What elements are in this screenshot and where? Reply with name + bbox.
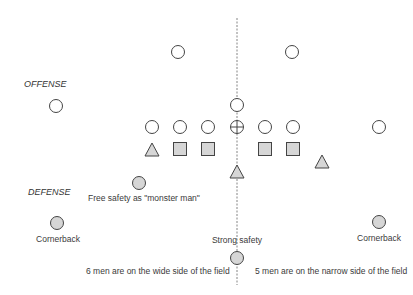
defense-player-square-icon <box>174 143 187 156</box>
defense-label: DEFENSE <box>28 187 71 197</box>
defense-player-triangle-icon <box>230 165 244 178</box>
defense-player-circle-icon <box>231 252 244 265</box>
defense-player-triangle-icon <box>315 155 329 168</box>
offense-player-circle-icon <box>287 121 300 134</box>
wide-side-note: 6 men are on the wide side of the field <box>86 266 230 276</box>
defense-player-circle-icon <box>51 217 64 230</box>
formation-diagram <box>0 0 413 295</box>
offense-player-circle-icon <box>172 46 185 59</box>
offense-player-crosshair-circle-icon <box>231 121 244 134</box>
defense-player-square-icon <box>202 143 215 156</box>
defense-player-square-icon <box>287 143 300 156</box>
offense-player-circle-icon <box>231 99 244 112</box>
offense-player-circle-icon <box>50 100 63 113</box>
free-safety-label: Free safety as "monster man" <box>88 193 200 203</box>
offense-player-circle-icon <box>259 121 272 134</box>
offense-label: OFFENSE <box>24 79 67 89</box>
defense-player-square-icon <box>259 143 272 156</box>
defense-player-circle-icon <box>373 216 386 229</box>
offense-player-circle-icon <box>286 46 299 59</box>
offense-player-circle-icon <box>174 121 187 134</box>
cornerback-left-label: Cornerback <box>36 234 80 244</box>
strong-safety-label: Strong safety <box>212 235 262 245</box>
offense-player-circle-icon <box>373 121 386 134</box>
defense-player-triangle-icon <box>145 143 159 156</box>
narrow-side-note: 5 men are on the narrow side of the fiel… <box>255 266 407 276</box>
offense-player-circle-icon <box>202 121 215 134</box>
defense-player-circle-icon <box>133 177 146 190</box>
offense-player-circle-icon <box>146 121 159 134</box>
cornerback-right-label: Cornerback <box>357 233 401 243</box>
